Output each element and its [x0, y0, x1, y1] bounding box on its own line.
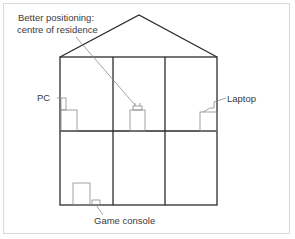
better-positioning-label-line1: Better positioning: — [18, 12, 94, 23]
laptop-icon — [200, 102, 217, 131]
laptop-leader-line — [214, 98, 226, 102]
pc-icon — [61, 98, 77, 131]
laptop-label: Laptop — [227, 93, 256, 104]
better-positioning-label-line2: centre of residence — [17, 24, 98, 35]
router-icon — [130, 103, 145, 131]
game-console-leader-line — [96, 205, 103, 215]
house-diagram — [0, 0, 295, 239]
game-console-label: Game console — [94, 215, 155, 226]
game-console-icon — [73, 183, 100, 205]
router-leader-line — [76, 37, 135, 105]
pc-label: PC — [37, 92, 50, 103]
